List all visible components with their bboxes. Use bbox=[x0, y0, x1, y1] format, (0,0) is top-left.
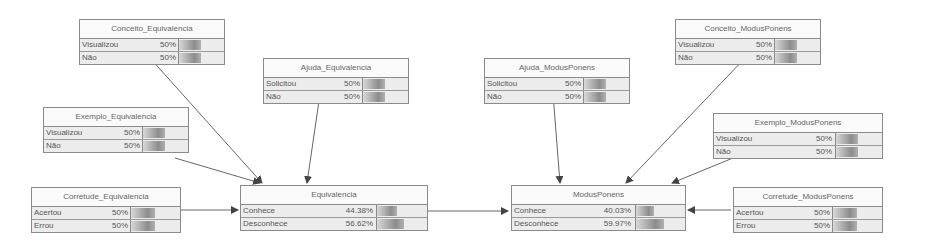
node-title: Conceito_ModusPonens bbox=[676, 20, 820, 39]
state-value: 44.38% bbox=[346, 205, 373, 217]
state-value: 50% bbox=[565, 78, 581, 90]
state-label: Desconhece bbox=[514, 218, 558, 230]
node-conceito-modusponens[interactable]: Conceito_ModusPonens Visualizou 50% Não … bbox=[675, 19, 821, 65]
probability-bar bbox=[142, 127, 190, 139]
probability-bar bbox=[178, 52, 226, 64]
state-label: Conhece bbox=[243, 205, 275, 217]
node-corretude-equivalencia[interactable]: Corretude_Equivalencia Acertou 50% Errou… bbox=[31, 187, 181, 233]
state-row[interactable]: Não 50% bbox=[44, 140, 188, 152]
edge-ajuda-mp bbox=[553, 94, 560, 183]
state-row[interactable]: Solicitou 50% bbox=[264, 78, 408, 91]
edge-exemplo-mp bbox=[672, 158, 733, 183]
state-value: 50% bbox=[124, 140, 140, 152]
state-value: 50% bbox=[124, 127, 140, 139]
state-value: 50% bbox=[756, 52, 772, 64]
state-row[interactable]: Não 50% bbox=[264, 91, 408, 103]
node-title: Ajuda_Equivalencia bbox=[264, 59, 408, 78]
node-title: Ajuda_ModusPonens bbox=[485, 59, 629, 78]
probability-bar bbox=[376, 205, 429, 217]
probability-bar bbox=[832, 220, 884, 232]
state-row[interactable]: Não 50% bbox=[714, 146, 882, 158]
state-value: 59.97% bbox=[604, 218, 631, 230]
edge-ajuda-eq bbox=[307, 94, 320, 183]
node-title: Equivalencia bbox=[241, 186, 427, 205]
node-ajuda-modusponens[interactable]: Ajuda_ModusPonens Solicitou 50% Não 50% bbox=[484, 58, 630, 104]
state-label: Visualizou bbox=[678, 39, 714, 51]
probability-bar bbox=[835, 146, 884, 158]
state-row[interactable]: Errou 50% bbox=[734, 220, 882, 232]
state-label: Errou bbox=[736, 220, 756, 232]
state-label: Errou bbox=[34, 220, 54, 232]
probability-bar bbox=[130, 220, 182, 232]
state-label: Acertou bbox=[736, 207, 764, 219]
state-row[interactable]: Desconhece 56.62% bbox=[241, 218, 427, 230]
state-row[interactable]: Conhece 44.38% bbox=[241, 205, 427, 218]
node-exemplo-equivalencia[interactable]: Exemplo_Equivalencia Visualizou 50% Não … bbox=[43, 107, 189, 153]
probability-bar bbox=[583, 91, 631, 103]
state-label: Conhece bbox=[514, 205, 546, 217]
state-row[interactable]: Visualizou 50% bbox=[714, 133, 882, 146]
state-label: Solicitou bbox=[487, 78, 517, 90]
probability-bar bbox=[635, 218, 687, 230]
probability-bar bbox=[376, 218, 429, 230]
probability-bar bbox=[774, 39, 822, 51]
state-row[interactable]: Acertou 50% bbox=[734, 207, 882, 220]
state-value: 50% bbox=[816, 146, 832, 158]
state-label: Visualizou bbox=[716, 133, 752, 145]
state-value: 50% bbox=[112, 207, 128, 219]
state-value: 50% bbox=[814, 207, 830, 219]
probability-bar bbox=[130, 207, 182, 219]
state-label: Visualizou bbox=[82, 39, 118, 51]
state-row[interactable]: Visualizou 50% bbox=[676, 39, 820, 52]
state-value: 50% bbox=[565, 91, 581, 103]
state-row[interactable]: Não 50% bbox=[80, 52, 224, 64]
probability-bar bbox=[178, 39, 226, 51]
state-label: Não bbox=[266, 91, 281, 103]
node-corretude-modusponens[interactable]: Corretude_ModusPonens Acertou 50% Errou … bbox=[733, 187, 883, 233]
node-equivalencia[interactable]: Equivalencia Conhece 44.38% Desconhece 5… bbox=[240, 185, 428, 231]
state-value: 50% bbox=[160, 52, 176, 64]
state-row[interactable]: Desconhece 59.97% bbox=[512, 218, 685, 230]
state-label: Acertou bbox=[34, 207, 62, 219]
state-label: Solicitou bbox=[266, 78, 296, 90]
state-row[interactable]: Não 50% bbox=[485, 91, 629, 103]
state-value: 50% bbox=[160, 39, 176, 51]
state-row[interactable]: Não 50% bbox=[676, 52, 820, 64]
probability-bar bbox=[835, 133, 884, 145]
state-value: 50% bbox=[344, 91, 360, 103]
state-label: Não bbox=[678, 52, 693, 64]
state-row[interactable]: Acertou 50% bbox=[32, 207, 180, 220]
probability-bar bbox=[142, 140, 190, 152]
probability-bar bbox=[362, 78, 410, 90]
state-value: 50% bbox=[816, 133, 832, 145]
node-conceito-equivalencia[interactable]: Conceito_Equivalencia Visualizou 50% Não… bbox=[79, 19, 225, 65]
state-row[interactable]: Visualizou 50% bbox=[44, 127, 188, 140]
node-modusponens[interactable]: ModusPonens Conhece 40.03% Desconhece 59… bbox=[511, 185, 686, 231]
state-row[interactable]: Conhece 40.03% bbox=[512, 205, 685, 218]
node-title: Corretude_Equivalencia bbox=[32, 188, 180, 207]
node-title: Exemplo_ModusPonens bbox=[714, 114, 882, 133]
state-label: Não bbox=[46, 140, 61, 152]
state-label: Visualizou bbox=[46, 127, 82, 139]
state-label: Não bbox=[82, 52, 97, 64]
bayesian-network-canvas: Conceito_Equivalencia Visualizou 50% Não… bbox=[0, 0, 936, 251]
state-row[interactable]: Visualizou 50% bbox=[80, 39, 224, 52]
edge-exemplo-eq bbox=[175, 158, 260, 183]
state-row[interactable]: Solicitou 50% bbox=[485, 78, 629, 91]
state-value: 40.03% bbox=[604, 205, 631, 217]
state-label: Desconhece bbox=[243, 218, 287, 230]
node-title: ModusPonens bbox=[512, 186, 685, 205]
node-ajuda-equivalencia[interactable]: Ajuda_Equivalencia Solicitou 50% Não 50% bbox=[263, 58, 409, 104]
node-title: Corretude_ModusPonens bbox=[734, 188, 882, 207]
node-title: Exemplo_Equivalencia bbox=[44, 108, 188, 127]
state-value: 50% bbox=[344, 78, 360, 90]
state-value: 50% bbox=[756, 39, 772, 51]
state-row[interactable]: Errou 50% bbox=[32, 220, 180, 232]
state-label: Não bbox=[716, 146, 731, 158]
node-title: Conceito_Equivalencia bbox=[80, 20, 224, 39]
probability-bar bbox=[832, 207, 884, 219]
node-exemplo-modusponens[interactable]: Exemplo_ModusPonens Visualizou 50% Não 5… bbox=[713, 113, 883, 159]
state-label: Não bbox=[487, 91, 502, 103]
probability-bar bbox=[635, 205, 687, 217]
probability-bar bbox=[583, 78, 631, 90]
